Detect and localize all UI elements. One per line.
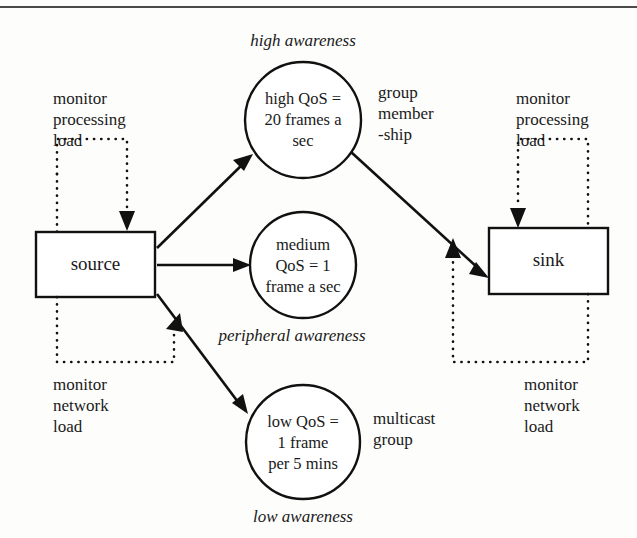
edge-source-to-medium-qos <box>157 258 251 272</box>
group-membership-line-3: -ship <box>378 125 412 144</box>
arrowhead-sink-processing-monitor <box>510 208 526 228</box>
low-qos-line-2: 1 frame <box>278 433 329 452</box>
low-awareness-label: low awareness <box>253 507 353 526</box>
edge-source-to-high-qos <box>157 154 253 248</box>
figure-canvas: source sink high QoS = 20 frames a sec h… <box>0 0 637 538</box>
sink-network-monitor-line-3: load <box>524 417 554 436</box>
sink-network-monitor-line-1: monitor <box>524 375 578 394</box>
arrowhead-high-qos-to-sink <box>469 262 489 278</box>
arrowhead-source-to-medium-qos <box>233 258 251 272</box>
peripheral-awareness-label: peripheral awareness <box>217 326 366 345</box>
sink-processing-monitor-line-3: load <box>516 131 546 150</box>
edge-high-qos-to-sink <box>351 152 489 278</box>
high-qos-line-2: 20 frames a <box>265 110 343 129</box>
arrowhead-source-processing-monitor <box>119 211 135 231</box>
medium-qos-line-2: QoS = 1 <box>275 256 330 275</box>
multicast-group-line-1: multicast <box>373 409 436 428</box>
source-network-monitor-line-1: monitor <box>53 375 107 394</box>
sink-processing-monitor-bracket <box>510 139 588 228</box>
sink-processing-monitor-line-1: monitor <box>516 89 570 108</box>
arrowhead-source-to-high-qos <box>233 154 253 171</box>
low-qos-line-3: per 5 mins <box>268 454 338 473</box>
group-membership-line-2: member <box>378 104 434 123</box>
edge-source-to-low-qos <box>157 294 248 414</box>
source-processing-monitor-bracket <box>57 139 135 232</box>
source-processing-monitor-line-3: load <box>53 131 83 150</box>
source-network-monitor-line-3: load <box>53 417 83 436</box>
group-membership-line-1: group <box>378 83 418 102</box>
source-processing-monitor-line-2: processing <box>53 110 126 129</box>
medium-qos-line-1: medium <box>276 235 330 254</box>
high-awareness-label: high awareness <box>250 31 356 50</box>
source-label: source <box>71 253 121 274</box>
high-qos-line-3: sec <box>292 131 313 150</box>
source-network-monitor-bracket <box>57 297 183 362</box>
low-qos-line-1: low QoS = <box>267 412 339 431</box>
multicast-group-line-2: group <box>373 430 413 449</box>
source-processing-monitor-line-1: monitor <box>53 89 107 108</box>
medium-qos-line-3: frame a sec <box>265 277 340 296</box>
high-qos-line-1: high QoS = <box>265 89 341 108</box>
sink-network-monitor-line-2: network <box>524 396 580 415</box>
sink-label: sink <box>533 249 565 270</box>
source-network-monitor-line-2: network <box>53 396 109 415</box>
diagram-svg: source sink high QoS = 20 frames a sec h… <box>0 0 637 538</box>
sink-processing-monitor-line-2: processing <box>516 110 589 129</box>
